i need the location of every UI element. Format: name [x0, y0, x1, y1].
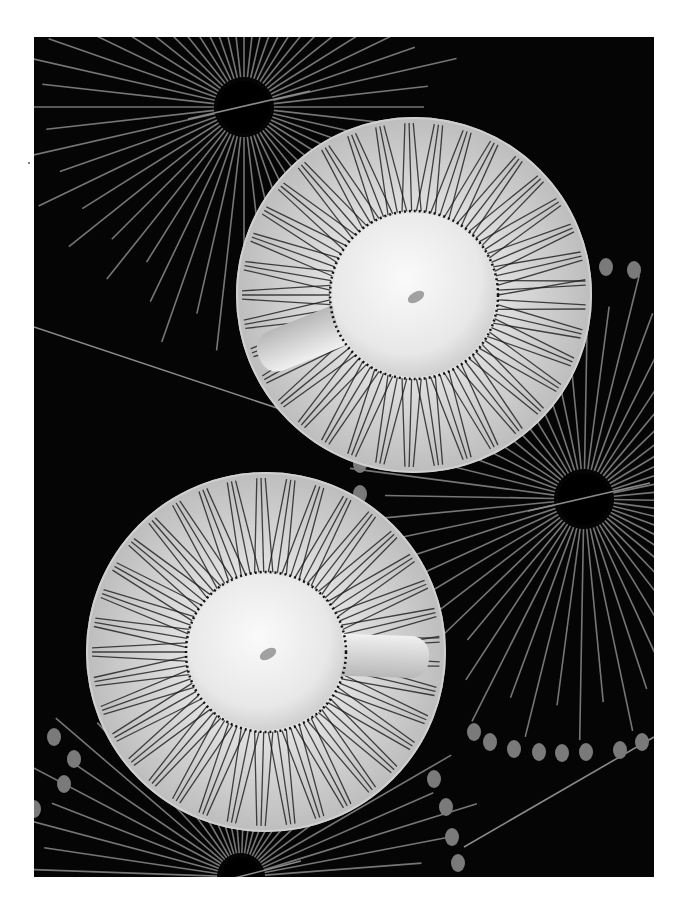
dot — [507, 740, 521, 758]
dot — [532, 743, 546, 761]
dot — [483, 733, 497, 751]
dot — [57, 775, 71, 793]
dot — [555, 744, 569, 762]
dot — [439, 798, 453, 816]
cups-scene — [34, 37, 654, 877]
dot — [427, 770, 441, 788]
dot — [599, 258, 613, 276]
dot — [613, 741, 627, 759]
dot — [579, 743, 593, 761]
stray-speck — [28, 162, 30, 164]
dot — [47, 728, 61, 746]
lower-cup — [86, 472, 446, 832]
upper-cup — [236, 117, 592, 473]
dot — [467, 723, 481, 741]
dot — [445, 828, 459, 846]
dot — [451, 854, 465, 872]
photograph — [34, 37, 654, 877]
dot — [67, 750, 81, 768]
dot — [635, 733, 649, 751]
dot — [627, 261, 641, 279]
